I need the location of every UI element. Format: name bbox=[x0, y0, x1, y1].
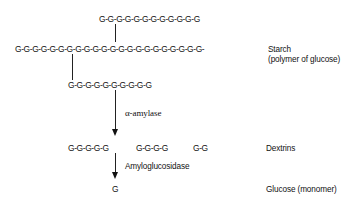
branch-link-top bbox=[115, 24, 116, 42]
enzyme-amyloglucosidase: Amyloglucosidase bbox=[125, 162, 189, 172]
arrow-down-icon bbox=[112, 172, 118, 179]
starch-top-branch: G-G-G-G-G-G-G-G-G-G-G-G bbox=[99, 14, 200, 24]
dextrins-label: Dextrins bbox=[266, 144, 295, 154]
dextrin-fragment-1: G-G-G-G-G bbox=[68, 143, 109, 153]
branch-link-bottom bbox=[72, 54, 73, 80]
arrow-down-icon bbox=[112, 129, 118, 136]
reaction-arrow-1-shaft bbox=[115, 90, 116, 130]
dextrin-fragment-3: G-G bbox=[193, 143, 208, 153]
enzyme-alpha-amylase: α-amylase bbox=[125, 108, 161, 118]
glucose-monomer: G bbox=[112, 184, 118, 194]
starch-lower-branch: G-G-G-G-G-G-G-G-G-G bbox=[68, 80, 152, 90]
starch-sublabel: (polymer of glucose) bbox=[268, 55, 340, 65]
reaction-arrow-2-shaft bbox=[115, 153, 116, 173]
starch-main-chain: G-G-G-G-G-G-G-G-G-G-G-G-G-G-G-G-G-G-G-G-… bbox=[15, 44, 204, 54]
starch-label: Starch bbox=[268, 45, 291, 55]
dextrin-fragment-2: G-G-G-G bbox=[136, 143, 168, 153]
glucose-label: Glucose (monomer) bbox=[266, 185, 337, 195]
